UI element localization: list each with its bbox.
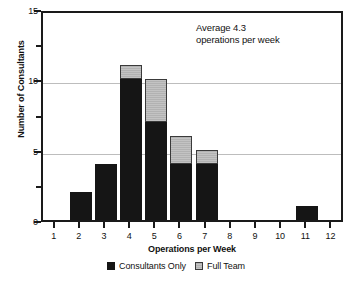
x-axis-tick-label: 11 [294,231,316,241]
x-axis-title: Operations per Week [41,244,343,254]
x-axis-tick [128,222,130,228]
x-axis-tick [78,222,80,228]
x-axis-tick [329,222,331,228]
gridline [43,83,341,84]
bar-segment-consultants-only [170,164,192,220]
bar-2 [70,192,92,220]
y-axis-tick-label: 15 [12,7,38,16]
annotation-line-2: operations per week [196,34,280,46]
average-annotation: Average 4.3 operations per week [196,22,280,46]
x-axis-tick [229,222,231,228]
bar-segment-full-team [145,79,167,121]
black-square-icon [107,262,115,270]
x-axis-tick-label: 3 [93,231,115,241]
x-axis-tick-label: 10 [269,231,291,241]
bar-4 [120,65,142,220]
bar-5 [145,79,167,220]
x-axis-tick [304,222,306,228]
bar-7 [196,150,218,220]
chart-legend: Consultants OnlyFull Team [0,261,352,271]
plot-area [41,11,343,222]
bar-segment-consultants-only [95,164,117,220]
bar-11 [296,206,318,220]
bar-segment-consultants-only [196,164,218,220]
bar-segment-consultants-only [120,79,142,220]
x-axis-tick [204,222,206,228]
plot-inner [43,13,341,220]
bar-segment-full-team [170,136,192,164]
bar-6 [170,136,192,220]
y-axis-tick-label: 0 [12,218,38,227]
bar-3 [95,164,117,220]
x-axis-tick [103,222,105,228]
legend-label: Consultants Only [119,261,186,271]
x-axis-tick [53,222,55,228]
x-axis-tick-label: 1 [43,231,65,241]
x-axis-tick [178,222,180,228]
y-axis-tick-label: 10 [12,77,38,86]
bar-segment-consultants-only [296,206,318,220]
y-axis-title: Number of Consultants [16,9,26,169]
bar-segment-consultants-only [70,192,92,220]
annotation-line-1: Average 4.3 [196,22,280,34]
bar-segment-full-team [196,150,218,164]
legend-label: Full Team [207,261,245,271]
x-axis-tick-label: 4 [118,231,140,241]
x-axis-tick [279,222,281,228]
legend-item-full-team: Full Team [195,261,245,271]
x-axis-tick [153,222,155,228]
y-axis-tick-label: 5 [12,148,38,157]
x-axis-tick [254,222,256,228]
x-axis-tick-label: 12 [319,231,341,241]
x-axis-tick-label: 6 [168,231,190,241]
legend-item-consultants-only: Consultants Only [107,261,186,271]
x-axis-tick-label: 2 [68,231,90,241]
x-axis-tick-label: 8 [219,231,241,241]
x-axis-tick-label: 5 [143,231,165,241]
bar-chart-figure: Number of Consultants 051015 Average 4.3… [0,0,352,282]
x-axis-tick-label: 9 [244,231,266,241]
bar-segment-full-team [120,65,142,79]
x-axis-tick-label: 7 [194,231,216,241]
bar-segment-consultants-only [145,122,167,220]
gray-square-icon [195,262,203,270]
